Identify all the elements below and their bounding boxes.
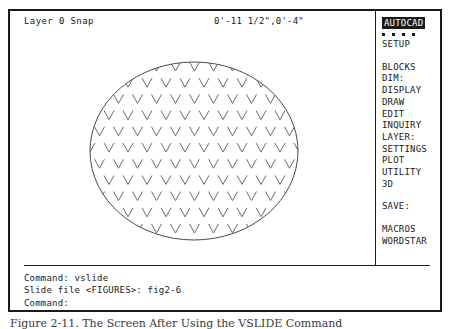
hatch-chevron-mark (199, 143, 209, 152)
hatch-chevron-mark (237, 175, 247, 184)
hatch-chevron-mark (256, 46, 266, 55)
hatch-chevron-mark (171, 127, 181, 136)
hatch-chevron-mark (114, 224, 124, 233)
hatch-chevron-mark (294, 175, 304, 184)
hatch-chevron-mark (228, 159, 238, 168)
hatch-chevron-mark (95, 192, 105, 201)
menu-item-layer[interactable]: LAYER: (382, 132, 440, 144)
hatch-chevron-mark (95, 159, 105, 168)
hatch-chevron-mark (237, 208, 247, 217)
hatch-chevron-mark (161, 175, 171, 184)
menu-item-macros[interactable]: MACROS (382, 224, 440, 236)
hatch-chevron-mark (209, 192, 219, 201)
hatch-chevron-mark (180, 46, 190, 55)
hatch-chevron-mark (161, 46, 171, 55)
menu-item-utility[interactable]: UTILITY (382, 167, 440, 179)
hatch-chevron-mark (76, 159, 86, 168)
hatch-chevron-mark (218, 240, 228, 249)
hatch-chevron-mark (304, 94, 314, 103)
hatch-chevron-mark (266, 192, 276, 201)
menu-item-3d[interactable]: 3D (382, 179, 440, 191)
hatch-chevron-mark (256, 175, 266, 184)
menu-item-inquiry[interactable]: INQUIRY (382, 120, 440, 132)
hatch-chevron-mark (275, 240, 285, 249)
command-prompt-area[interactable]: Command: vslideSlide file <FIGURES>: fig… (24, 272, 430, 310)
menu-item-draw[interactable]: DRAW (382, 97, 440, 109)
hatch-chevron-mark (104, 143, 114, 152)
hatched-ellipse-drawing (10, 37, 375, 264)
side-menu-title[interactable]: AUTOCAD (382, 17, 425, 29)
menu-item-wordstar[interactable]: WORDSTAR (382, 236, 440, 248)
hatch-chevron-mark (95, 94, 105, 103)
hatch-chevron-mark (256, 143, 266, 152)
menu-dot-1 (382, 33, 385, 36)
command-line-1: Command: vslide (24, 272, 430, 284)
hatch-chevron-mark (85, 208, 95, 217)
hatch-chevron-mark (142, 240, 152, 249)
hatch-chevron-mark (123, 240, 133, 249)
hatch-chevron-mark (256, 208, 266, 217)
hatch-chevron-mark (304, 127, 314, 136)
hatch-chevron-mark (104, 208, 114, 217)
hatch-chevron-mark (152, 94, 162, 103)
menu-item-display[interactable]: DISPLAY (382, 85, 440, 97)
hatch-chevron-mark (180, 143, 190, 152)
hatch-chevron-mark (142, 175, 152, 184)
menu-item-settings[interactable]: SETTINGS (382, 144, 440, 156)
side-menu: AUTOCAD SETUPBLOCKSDIM:DISPLAYDRAWEDITIN… (376, 11, 440, 265)
menu-item-plot[interactable]: PLOT (382, 155, 440, 167)
hatch-chevron-mark (199, 208, 209, 217)
menu-item-setup[interactable]: SETUP (382, 39, 440, 51)
hatch-chevron-mark (266, 224, 276, 233)
menu-dot-4 (412, 33, 415, 36)
hatch-chevron-mark (237, 78, 247, 87)
menu-item-save[interactable]: SAVE: (382, 201, 440, 213)
hatch-chevron-mark (266, 62, 276, 71)
hatch-chevron-mark (85, 78, 95, 87)
hatch-chevron-mark (180, 240, 190, 249)
hatch-chevron-mark (190, 94, 200, 103)
hatch-chevron-mark (237, 111, 247, 120)
hatch-chevron-mark (104, 78, 114, 87)
hatch-chevron-mark (66, 240, 76, 249)
hatch-chevron-mark (199, 111, 209, 120)
hatch-chevron-mark (66, 111, 76, 120)
hatch-chevron-mark (275, 143, 285, 152)
hatch-chevron-mark (123, 208, 133, 217)
hatch-chevron-mark (209, 159, 219, 168)
hatch-chevron-mark (304, 224, 314, 233)
hatch-chevron-mark (294, 78, 304, 87)
hatch-chevron-mark (285, 127, 295, 136)
hatch-chevron-mark (285, 62, 295, 71)
hatch-chevron-mark (199, 240, 209, 249)
hatch-chevron-mark (114, 192, 124, 201)
command-area-divider (24, 265, 430, 266)
hatch-chevron-mark (161, 143, 171, 152)
hatch-chevron-mark (275, 111, 285, 120)
hatch-chevron-mark (190, 159, 200, 168)
hatch-chevron-mark (247, 159, 257, 168)
hatch-chevron-mark (237, 46, 247, 55)
hatch-chevron-mark (199, 46, 209, 55)
hatch-chevron-mark (95, 224, 105, 233)
side-menu-items: SETUPBLOCKSDIM:DISPLAYDRAWEDITINQUIRYLAY… (382, 39, 440, 248)
menu-item-dim[interactable]: DIM: (382, 73, 440, 85)
command-line-2: Slide file <FIGURES>: fig2-6 (24, 284, 430, 296)
hatch-chevron-mark (142, 208, 152, 217)
hatch-chevron-mark (218, 143, 228, 152)
hatch-chevron-mark (171, 192, 181, 201)
drawing-area[interactable] (10, 37, 375, 264)
hatch-chevron-mark (180, 78, 190, 87)
hatch-chevron-mark (199, 78, 209, 87)
hatch-chevron-mark (266, 159, 276, 168)
menu-item-edit[interactable]: EDIT (382, 109, 440, 121)
hatch-chevron-mark (161, 78, 171, 87)
menu-item-blocks[interactable]: BLOCKS (382, 62, 440, 74)
hatch-chevron-mark (152, 224, 162, 233)
hatch-chevron-mark (304, 62, 314, 71)
hatch-chevron-mark (152, 192, 162, 201)
hatch-chevron-mark (180, 208, 190, 217)
hatch-chevron-mark (209, 127, 219, 136)
hatch-chevron-mark (152, 159, 162, 168)
hatch-chevron-mark (228, 192, 238, 201)
